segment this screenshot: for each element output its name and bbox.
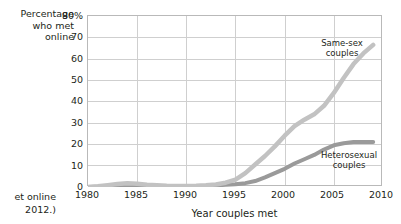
x-tick-label: 1980: [67, 189, 107, 200]
annotation-same-sex-line-2: couples: [316, 48, 368, 58]
y-tick-label: 30: [49, 117, 83, 128]
y-tick-label: 40: [49, 95, 83, 106]
y-tick-label: 80%: [49, 10, 83, 21]
x-axis-title: Year couples met: [87, 208, 382, 219]
x-tick-label: 2000: [263, 189, 303, 200]
y-tick-label: 70: [49, 31, 83, 42]
x-tick-label: 2005: [312, 189, 352, 200]
x-tick-label: 1985: [116, 189, 156, 200]
y-tick-label: 60: [49, 53, 83, 64]
annotation-heterosexual-couples: Heterosexual couples: [318, 150, 380, 170]
y-tick-label: 10: [49, 160, 83, 171]
chart-root: Percentage who met online et online 2012…: [0, 0, 401, 224]
x-tick-label: 1995: [214, 189, 254, 200]
annotation-same-sex-line-1: Same-sex: [316, 38, 368, 48]
x-tick-label: 1990: [165, 189, 205, 200]
annotation-same-sex-couples: Same-sex couples: [316, 38, 368, 58]
x-tick-label: 2010: [361, 189, 401, 200]
annotation-heterosexual-line-1: Heterosexual: [318, 150, 380, 160]
y-tick-label: 50: [49, 74, 83, 85]
y-tick-label: 20: [49, 138, 83, 149]
annotation-heterosexual-line-2: couples: [318, 160, 380, 170]
